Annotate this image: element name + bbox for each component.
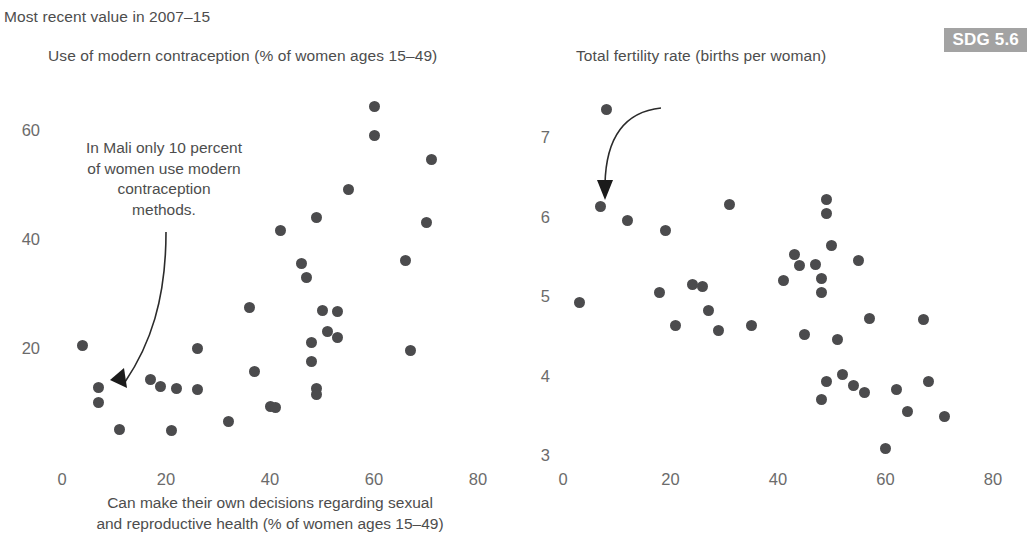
data-point: [697, 281, 708, 292]
data-point: [343, 184, 354, 195]
data-point: [821, 194, 832, 205]
y-axis-tick-label: 20: [22, 339, 40, 358]
data-point: [789, 249, 800, 260]
data-point: [848, 380, 859, 391]
data-point: [902, 406, 913, 417]
data-point: [311, 389, 322, 400]
data-point: [810, 259, 821, 270]
y-axis-tick-label: 5: [541, 287, 550, 306]
annotation-arrow: [0, 0, 520, 470]
data-point: [400, 255, 411, 266]
data-point: [192, 343, 203, 354]
x-axis-tick-label: 60: [365, 470, 383, 489]
data-point: [306, 337, 317, 348]
data-point: [145, 374, 156, 385]
data-point: [778, 275, 789, 286]
data-point: [595, 201, 606, 212]
data-point: [369, 101, 380, 112]
data-point: [421, 217, 432, 228]
data-point: [317, 305, 328, 316]
data-point: [724, 199, 735, 210]
y-axis-tick-label: 7: [541, 128, 550, 147]
panel-modern-contraception: Use of modern contraception (% of women …: [0, 0, 520, 548]
data-point: [832, 334, 843, 345]
scatter-plot-area: 204060020406080: [0, 0, 520, 470]
data-point: [223, 416, 234, 427]
data-point: [660, 225, 671, 236]
x-axis-tick-label: 60: [876, 470, 894, 489]
data-point: [821, 208, 832, 219]
data-point: [77, 340, 88, 351]
data-point: [426, 154, 437, 165]
x-axis-tick-label: 20: [661, 470, 679, 489]
data-point: [244, 302, 255, 313]
data-point: [713, 325, 724, 336]
annotation-text: In Mali only 10 percent of women use mod…: [62, 138, 266, 220]
y-axis-tick-label: 3: [541, 446, 550, 465]
x-axis-tick-label: 80: [984, 470, 1002, 489]
data-point: [816, 287, 827, 298]
x-axis-caption: Can make their own decisions regarding s…: [60, 493, 480, 535]
data-point: [270, 402, 281, 413]
data-point: [918, 314, 929, 325]
data-point: [275, 225, 286, 236]
data-point: [891, 384, 902, 395]
data-point: [249, 366, 260, 377]
data-point: [816, 273, 827, 284]
data-point: [821, 376, 832, 387]
y-axis-tick-label: 6: [541, 207, 550, 226]
data-point: [799, 329, 810, 340]
data-point: [746, 320, 757, 331]
data-point: [622, 215, 633, 226]
data-point: [670, 320, 681, 331]
annotation-arrow: [513, 0, 1033, 470]
x-axis-tick-label: 80: [469, 470, 487, 489]
data-point: [332, 332, 343, 343]
data-point: [703, 305, 714, 316]
data-point: [923, 376, 934, 387]
data-point: [837, 369, 848, 380]
y-axis-tick-label: 40: [22, 230, 40, 249]
data-point: [93, 382, 104, 393]
data-point: [687, 279, 698, 290]
data-point: [192, 384, 203, 395]
data-point: [93, 397, 104, 408]
data-point: [114, 424, 125, 435]
data-point: [369, 130, 380, 141]
data-point: [853, 255, 864, 266]
data-point: [654, 287, 665, 298]
data-point: [405, 345, 416, 356]
data-point: [826, 240, 837, 251]
x-axis-tick-label: 0: [57, 470, 66, 489]
data-point: [166, 425, 177, 436]
data-point: [332, 306, 343, 317]
data-point: [155, 381, 166, 392]
data-point: [864, 313, 875, 324]
y-axis-tick-label: 4: [541, 366, 550, 385]
data-point: [816, 394, 827, 405]
data-point: [601, 104, 612, 115]
x-axis-tick-label: 40: [261, 470, 279, 489]
data-point: [311, 212, 322, 223]
x-axis-tick-label: 0: [558, 470, 567, 489]
data-point: [939, 411, 950, 422]
data-point: [296, 258, 307, 269]
data-point: [859, 387, 870, 398]
data-point: [171, 383, 182, 394]
data-point: [322, 326, 333, 337]
data-point: [306, 356, 317, 367]
x-axis-tick-label: 20: [157, 470, 175, 489]
data-point: [880, 443, 891, 454]
panel-total-fertility-rate: Total fertility rate (births per woman) …: [513, 0, 1033, 548]
data-point: [794, 260, 805, 271]
data-point: [301, 272, 312, 283]
scatter-plot-area: 34567020406080: [513, 0, 1033, 470]
chart-figure: Most recent value in 2007–15 SDG 5.6 Use…: [0, 0, 1033, 548]
y-axis-tick-label: 60: [22, 121, 40, 140]
data-point: [574, 297, 585, 308]
x-axis-tick-label: 40: [769, 470, 787, 489]
